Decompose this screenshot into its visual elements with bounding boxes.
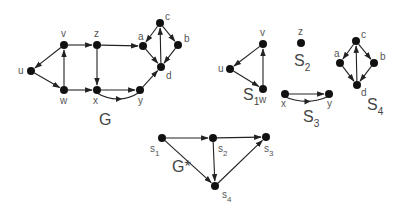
node-G-c xyxy=(156,19,164,27)
node-G-a xyxy=(139,42,147,50)
node-label-S1-u: u xyxy=(218,63,224,74)
node-Gstar-s1 xyxy=(158,134,166,142)
node-G-d xyxy=(157,63,165,71)
edge-G-a-d xyxy=(146,49,158,63)
edge-S4-c-a xyxy=(343,44,354,59)
edge-Gstar-s2-s3 xyxy=(217,137,261,138)
edge-G-d-c xyxy=(160,28,161,63)
node-label-G-y: y xyxy=(138,95,143,106)
node-label-G-w: w xyxy=(59,95,68,106)
edge-G-z-a xyxy=(101,45,138,46)
edge-G-y-d xyxy=(143,71,158,87)
node-label-S1-w: w xyxy=(258,94,267,105)
node-G-w xyxy=(60,86,68,94)
node-label-S2-z: z xyxy=(298,26,303,37)
node-Gstar-s2 xyxy=(209,134,217,142)
graph-diagram: uvzwxyacbdGvuwS1zS2xyS3cabdS4s1s2s3s4G* xyxy=(0,0,403,204)
edge-S1-u-w xyxy=(233,71,258,86)
graph-title-G: G xyxy=(99,111,111,128)
node-G-u xyxy=(27,67,35,75)
edge-S4-a-d xyxy=(342,66,353,81)
edge-G-b-d xyxy=(164,48,175,63)
node-label-S3-x: x xyxy=(281,98,286,109)
edge-S4-d-c xyxy=(356,46,357,81)
node-label-S3-y: y xyxy=(327,98,332,109)
graph-title-Gstar: G* xyxy=(172,158,191,175)
node-label-Gstar-s2: s2 xyxy=(218,143,228,158)
node-label-G-d: d xyxy=(166,70,172,81)
node-label-G-b: b xyxy=(184,33,190,44)
edge-G-c-b xyxy=(163,26,175,41)
node-Gstar-s4 xyxy=(211,182,219,190)
node-label-S4-c: c xyxy=(361,29,366,40)
edge-G-v-u xyxy=(35,47,61,67)
edge-G-u-w xyxy=(34,73,59,88)
node-G-y xyxy=(136,86,144,94)
node-label-Gstar-s4: s4 xyxy=(222,189,232,204)
node-S3-y xyxy=(325,90,333,98)
node-S4-c xyxy=(352,37,360,45)
labels-layer: uvzwxyacbdGvuwS1zS2xyS3cabdS4s1s2s3s4G* xyxy=(18,11,386,204)
node-label-S4-a: a xyxy=(334,48,340,59)
edge-G-c-a xyxy=(146,26,158,42)
node-label-G-v: v xyxy=(61,28,66,39)
node-label-G-c: c xyxy=(165,11,170,22)
node-G-x xyxy=(93,86,101,94)
edge-Gstar-s2-s4 xyxy=(213,142,215,181)
node-S2-z xyxy=(297,39,305,47)
node-label-G-a: a xyxy=(138,31,144,42)
node-S4-a xyxy=(336,59,344,67)
graph-title-S1: S1 xyxy=(243,86,260,107)
node-G-v xyxy=(60,41,68,49)
node-S1-u xyxy=(226,65,234,73)
graph-title-S3: S3 xyxy=(303,108,320,129)
node-label-Gstar-s3: s3 xyxy=(264,143,274,158)
node-S4-d xyxy=(353,81,361,89)
edge-S1-v-u xyxy=(234,46,260,66)
node-G-z xyxy=(93,41,101,49)
edge-Gstar-s4-s3 xyxy=(218,140,263,183)
edges-layer xyxy=(34,26,371,183)
node-label-S1-v: v xyxy=(260,27,265,38)
node-S1-w xyxy=(259,85,267,93)
node-S4-b xyxy=(370,59,378,67)
node-S3-x xyxy=(281,90,289,98)
node-label-Gstar-s1: s1 xyxy=(150,143,160,158)
arrowhead xyxy=(116,96,122,102)
node-Gstar-s3 xyxy=(262,133,270,141)
node-G-b xyxy=(174,41,182,49)
edge-S4-b-d xyxy=(360,66,371,81)
graph-title-S2: S2 xyxy=(294,52,311,73)
node-label-G-u: u xyxy=(18,65,24,76)
node-label-G-x: x xyxy=(93,95,98,106)
edge-S4-c-b xyxy=(359,44,371,59)
graph-title-S4: S4 xyxy=(367,96,384,117)
node-label-S4-b: b xyxy=(380,51,386,62)
node-label-G-z: z xyxy=(94,28,99,39)
arrowhead xyxy=(305,98,311,104)
node-S1-v xyxy=(259,40,267,48)
node-label-S4-d: d xyxy=(361,87,367,98)
